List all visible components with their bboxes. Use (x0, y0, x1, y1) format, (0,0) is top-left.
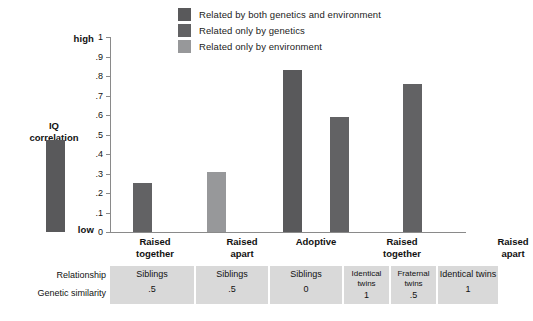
y-axis-tick-label: .2 (95, 188, 103, 198)
y-axis-tick-mark (106, 174, 110, 175)
x-axis-category-label: Raisedtogether (115, 236, 195, 259)
legend-item-label: Related only by genetics (199, 24, 305, 37)
bar (403, 84, 422, 232)
table-cell-genetic-similarity: 1 (364, 290, 369, 301)
bar (330, 117, 349, 232)
table-cell-genetic-similarity: .5 (228, 284, 236, 295)
table-column: Siblings.5 (196, 266, 268, 304)
legend-item: Related by both genetics and environment (178, 8, 381, 21)
y-axis-tick-mark (106, 135, 110, 136)
y-axis-tick-mark (106, 232, 110, 233)
y-axis-tick-label: .1 (95, 208, 103, 218)
table-row-label-genetic-similarity: Genetic similarity (12, 288, 106, 298)
table-cell-relationship: Identicaltwins (352, 269, 382, 288)
table-cell-genetic-similarity: .5 (410, 290, 418, 301)
y-axis-tick-label: 0 (98, 227, 103, 237)
table-row-label-relationship: Relationship (12, 270, 106, 280)
x-axis-category-label: Raisedtogether (362, 236, 442, 259)
x-axis-category-label: Adoptive (276, 236, 356, 248)
x-axis-category-line1: Raised (497, 236, 528, 247)
legend-item-label: Related by both genetics and environment (199, 8, 381, 21)
y-axis-tick-label: .8 (95, 71, 103, 81)
bar (283, 70, 302, 232)
x-axis-category-line2: apart (501, 248, 524, 259)
table-column: Siblings0 (270, 266, 342, 304)
x-axis-category-line2: together (383, 248, 421, 259)
table-cell-genetic-similarity: 0 (303, 284, 308, 295)
y-axis-tick-mark (106, 213, 110, 214)
table-cell-genetic-similarity: .5 (148, 284, 156, 295)
bar (207, 172, 226, 232)
x-axis-category-label: Raisedapart (473, 236, 533, 259)
y-axis-tick-label: .4 (95, 149, 103, 159)
x-axis-category-line1: Raised (226, 236, 257, 247)
x-axis-category-line1: Raised (139, 236, 170, 247)
y-axis-tick-mark (106, 154, 110, 155)
y-axis-tick-mark (106, 96, 110, 97)
y-axis-tick-label: .6 (95, 110, 103, 120)
x-axis-category-line2: apart (230, 248, 253, 259)
y-axis-tick-label: .5 (95, 130, 103, 140)
legend-swatch-icon (178, 8, 191, 21)
plot-area: 1.9.8.7.6.5.4.3.2.10 RaisedtogetherRaise… (110, 37, 466, 233)
table-column: Siblings.5 (110, 266, 194, 304)
table-column: Identical twins1 (438, 266, 498, 304)
table-column: Fraternaltwins.5 (391, 266, 436, 304)
y-axis-tick-mark (106, 193, 110, 194)
x-axis-category-line2: together (136, 248, 174, 259)
x-axis-line (110, 232, 466, 233)
x-axis-category-line1: Adoptive (296, 236, 337, 247)
table-cell-relationship: Siblings (136, 269, 168, 280)
table-cell-relationship: Siblings (290, 269, 322, 280)
table-cell-genetic-similarity: 1 (465, 284, 470, 295)
y-axis-tick-mark (106, 76, 110, 77)
y-axis-title-line1: IQ (49, 120, 59, 131)
data-table: Siblings.5Siblings.5Siblings0Identicaltw… (110, 266, 466, 304)
y-axis-line (110, 37, 111, 233)
x-axis-category-label: Raisedapart (202, 236, 282, 259)
table-column: Identicaltwins1 (344, 266, 389, 304)
bar (133, 183, 152, 232)
y-axis-tick-mark (106, 57, 110, 58)
legend-swatch-icon (178, 24, 191, 37)
y-axis-tick-label: .3 (95, 169, 103, 179)
table-cell-relationship: Fraternaltwins (397, 269, 429, 288)
x-axis-category-line1: Raised (386, 236, 417, 247)
table-cell-relationship: Siblings (216, 269, 248, 280)
y-axis-tick-mark (106, 37, 110, 38)
axis-high-label: high (24, 33, 94, 44)
legend-item: Related only by genetics (178, 24, 381, 37)
y-axis-tick-label: .7 (95, 91, 103, 101)
y-axis-tick-label: .9 (95, 52, 103, 62)
y-axis-tick-label: 1 (98, 32, 103, 42)
bar (46, 140, 65, 232)
table-cell-relationship: Identical twins (440, 269, 497, 280)
y-axis-tick-mark (106, 115, 110, 116)
